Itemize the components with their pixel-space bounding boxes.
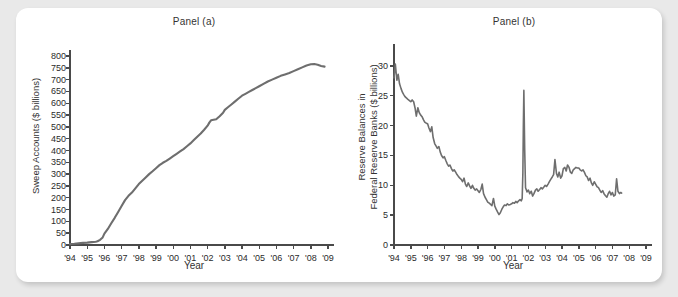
- panel-a: Panel (a) Sweep Accounts ($ billions) Ye…: [16, 8, 346, 282]
- x-axis-tick-label: '04: [556, 253, 568, 263]
- y-axis-tick-label: 20: [346, 121, 388, 131]
- x-axis-tick-label: '94: [64, 253, 76, 263]
- data-series-line: [394, 64, 622, 214]
- y-axis-tick-label: 300: [16, 169, 66, 179]
- x-axis-tick-label: '02: [523, 253, 535, 263]
- y-axis-tick-label: 150: [16, 205, 66, 215]
- x-axis-tick-label: '01: [506, 253, 518, 263]
- y-axis-tick-label: 50: [16, 228, 66, 238]
- data-series-line: [70, 64, 325, 244]
- y-axis-tick-label: 0: [16, 240, 66, 250]
- x-axis-tick-label: '08: [305, 253, 317, 263]
- y-axis-tick-label: 100: [16, 216, 66, 226]
- y-axis-tick-label: 600: [16, 98, 66, 108]
- x-axis-tick-label: '03: [219, 253, 231, 263]
- y-axis-tick-label: 550: [16, 110, 66, 120]
- x-axis-tick-label: '09: [640, 253, 652, 263]
- x-axis-tick-label: '09: [322, 253, 334, 263]
- x-axis-tick-label: '96: [99, 253, 111, 263]
- y-axis-tick-label: 10: [346, 180, 388, 190]
- x-axis-tick-label: '05: [253, 253, 265, 263]
- y-axis-tick-label: 500: [16, 122, 66, 132]
- x-axis-tick-label: '08: [623, 253, 635, 263]
- figure-card: Panel (a) Sweep Accounts ($ billions) Ye…: [16, 8, 662, 282]
- x-axis-tick-label: '99: [150, 253, 162, 263]
- y-axis-tick-label: 200: [16, 193, 66, 203]
- y-axis-tick-label: 650: [16, 86, 66, 96]
- x-axis-tick-label: '95: [405, 253, 417, 263]
- x-axis-tick-label: '94: [388, 253, 400, 263]
- panel-b: Panel (b) Reserve Balances in Federal Re…: [346, 8, 662, 282]
- x-axis-tick-label: '96: [422, 253, 434, 263]
- y-axis-tick-label: 0: [346, 240, 388, 250]
- y-axis-tick-label: 350: [16, 157, 66, 167]
- x-axis-tick-label: '05: [573, 253, 585, 263]
- y-axis-tick-label: 400: [16, 146, 66, 156]
- y-axis-tick-label: 25: [346, 91, 388, 101]
- x-axis-tick-label: '07: [288, 253, 300, 263]
- y-axis-tick-label: 700: [16, 75, 66, 85]
- y-axis-tick-label: 450: [16, 134, 66, 144]
- x-axis-tick-label: '04: [236, 253, 248, 263]
- x-axis-tick-label: '03: [539, 253, 551, 263]
- y-axis-tick-label: 800: [16, 51, 66, 61]
- x-axis-tick-label: '97: [116, 253, 128, 263]
- y-axis-tick-label: 15: [346, 150, 388, 160]
- x-axis-tick-label: '98: [455, 253, 467, 263]
- y-axis-tick-label: 5: [346, 210, 388, 220]
- x-axis-tick-label: '02: [202, 253, 214, 263]
- x-axis-tick-label: '97: [439, 253, 451, 263]
- y-axis-tick-label: 750: [16, 63, 66, 73]
- x-axis-tick-label: '95: [81, 253, 93, 263]
- x-axis-tick-label: '01: [185, 253, 197, 263]
- x-axis-tick-label: '99: [472, 253, 484, 263]
- x-axis-tick-label: '06: [590, 253, 602, 263]
- x-axis-tick-label: '00: [489, 253, 501, 263]
- x-axis-tick-label: '00: [167, 253, 179, 263]
- y-axis-tick-label: 250: [16, 181, 66, 191]
- x-axis-tick-label: '98: [133, 253, 145, 263]
- x-axis-tick-label: '06: [271, 253, 283, 263]
- x-axis-tick-label: '07: [607, 253, 619, 263]
- y-axis-tick-label: 30: [346, 61, 388, 71]
- panel-b-plot: [346, 8, 662, 282]
